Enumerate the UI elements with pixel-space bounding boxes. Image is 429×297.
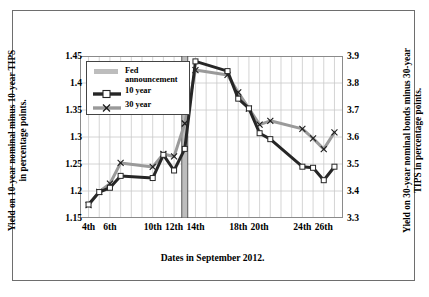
- y-tick-left-5: 1.4: [42, 77, 82, 88]
- line-x-marker-icon: [92, 100, 122, 112]
- line-square-marker-icon: [92, 86, 122, 98]
- gray-band-icon: [92, 66, 122, 78]
- y-tick-left-1: 1.2: [42, 185, 82, 196]
- y-tick-right-6: 3.9: [347, 50, 387, 61]
- y-tick-right-3: 3.6: [347, 131, 387, 142]
- y-axis-label-left: Yield on 10-year nominal minus 10-year T…: [7, 46, 28, 236]
- x-tick-1: 6th: [90, 221, 130, 232]
- chart-legend: Fed announcement 10 year 30 year: [86, 61, 190, 115]
- legend-item-fed-announcement: Fed announcement: [92, 66, 184, 84]
- x-tick-6: 20th: [240, 221, 280, 232]
- y-tick-left-2: 1.25: [42, 158, 82, 169]
- y-tick-right-0: 3.3: [347, 212, 387, 223]
- y-tick-left-6: 1.45: [42, 50, 82, 61]
- legend-item-10-year: 10 year: [92, 86, 184, 98]
- x-tick-4: 14th: [175, 221, 215, 232]
- y-tick-right-5: 3.8: [347, 77, 387, 88]
- y-tick-left-3: 1.3: [42, 131, 82, 142]
- legend-label-10-year: 10 year: [125, 86, 151, 95]
- legend-item-30-year: 30 year: [92, 100, 184, 112]
- x-axis-label: Dates in September 2012.: [80, 253, 345, 264]
- y-tick-left-4: 1.35: [42, 104, 82, 115]
- y-tick-right-4: 3.7: [347, 104, 387, 115]
- y-axis-label-right: Yield on 30-year nominal bonds minus 30-…: [402, 46, 423, 236]
- y-tick-right-2: 3.5: [347, 158, 387, 169]
- legend-label-fed-announcement: Fed announcement: [125, 66, 184, 84]
- chart-figure: Yield on 10-year nominal minus 10-year T…: [0, 0, 429, 297]
- y-tick-right-1: 3.4: [347, 185, 387, 196]
- legend-label-30-year: 30 year: [125, 100, 151, 109]
- x-tick-8: 26th: [304, 221, 344, 232]
